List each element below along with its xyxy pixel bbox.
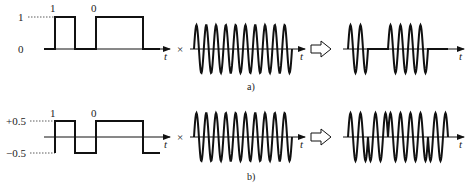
caption-b: b): [247, 171, 255, 183]
multiply-sign: ×: [177, 43, 183, 55]
level-label-minus-0-5: −0.5: [6, 147, 26, 159]
ook-modulated-wave: [348, 25, 448, 73]
bpsk-modulated-wave: [348, 113, 448, 161]
level-label-0: 0: [18, 43, 24, 55]
hollow-arrow-icon: [311, 41, 331, 57]
axis-t-label: t: [459, 138, 463, 150]
level-label-plus-0-5: +0.5: [6, 115, 26, 127]
panel-b: +0.5 −0.5 1 0 t × t t b): [6, 107, 464, 183]
hollow-arrow-icon: [311, 129, 331, 145]
bit-label-0: 0: [91, 2, 97, 14]
unipolar-square-wave: [44, 17, 160, 49]
caption-a: a): [247, 81, 255, 93]
axis-t-label: t: [164, 138, 168, 150]
bit-label-1: 1: [50, 2, 56, 14]
axis-t-label: t: [164, 50, 168, 62]
level-label-1: 1: [18, 11, 24, 23]
carrier-sine-wave: [194, 113, 292, 161]
multiply-sign: ×: [177, 131, 183, 143]
axis-t-label: t: [459, 50, 463, 62]
bit-label-1: 1: [50, 107, 56, 119]
bit-label-0: 0: [91, 107, 97, 119]
carrier-sine-wave: [194, 25, 292, 73]
panel-a: 1 0 1 0 t × t t a): [18, 2, 464, 93]
axis-t-label: t: [300, 50, 304, 62]
axis-t-label: t: [300, 138, 304, 150]
modulation-diagram: 1 0 1 0 t × t t a) +0.5 −0.5 1 0 t: [0, 0, 468, 185]
